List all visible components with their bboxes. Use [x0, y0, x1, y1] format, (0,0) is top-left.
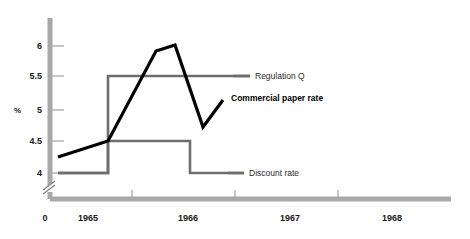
series-regulation-q: [58, 76, 250, 173]
origin-label: 0: [42, 213, 47, 223]
legend-label-regulation-q: Regulation Q: [255, 71, 305, 81]
y-tick-label-5-5: 5.5: [29, 71, 42, 81]
y-axis-tick-labels: 6 5.5 5 4.5 4: [29, 41, 42, 178]
y-axis-ticks: [52, 46, 64, 173]
x-axis-tick-labels: 1965 1966 1967 1968: [78, 213, 402, 223]
y-tick-label-4: 4: [37, 168, 42, 178]
legend-label-commercial-paper-rate: Commercial paper rate: [231, 93, 323, 103]
y-tick-label-5: 5: [37, 105, 42, 115]
legend-item-commercial-paper-rate: Commercial paper rate: [231, 93, 323, 103]
x-tick-label-1967: 1967: [280, 213, 300, 223]
x-tick-label-1968: 1968: [382, 213, 402, 223]
line-chart: 6 5.5 5 4.5 4 % 0 1965 1966 1967 1968: [0, 0, 470, 239]
y-tick-label-6: 6: [37, 41, 42, 51]
x-tick-label-1966: 1966: [178, 213, 198, 223]
y-axis-unit-label: %: [14, 106, 21, 115]
x-tick-label-1965: 1965: [78, 213, 98, 223]
y-tick-label-4-5: 4.5: [29, 136, 42, 146]
legend-item-regulation-q: Regulation Q: [233, 71, 305, 81]
legend-label-discount-rate: Discount rate: [249, 168, 299, 178]
chart-container: 6 5.5 5 4.5 4 % 0 1965 1966 1967 1968: [0, 0, 470, 239]
series-discount-rate: [58, 141, 244, 173]
x-axis-ticks: [132, 190, 338, 197]
legend-item-discount-rate: Discount rate: [228, 168, 299, 178]
